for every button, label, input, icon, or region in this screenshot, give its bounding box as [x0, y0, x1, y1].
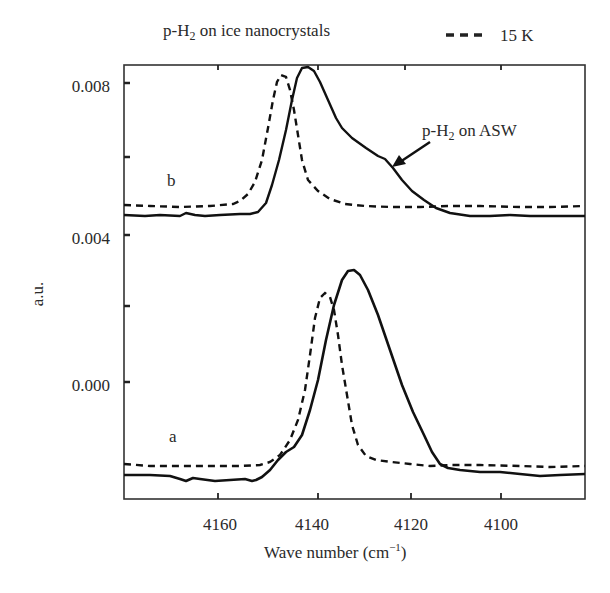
- y-tick-label: 0.004: [72, 229, 111, 248]
- x-tick-label: 4120: [394, 515, 428, 534]
- curve-b-solid: [124, 67, 585, 216]
- y-tick-label: 0.008: [72, 77, 110, 96]
- x-tick-label: 4160: [203, 515, 237, 534]
- spectrum-chart: p-H2 on ice nanocrystals 15 K 0.008 0.00…: [0, 0, 610, 593]
- curve-label-b: b: [167, 171, 176, 190]
- x-axis-label: Wave number (cm−1): [264, 541, 407, 562]
- legend: 15 K: [446, 26, 534, 45]
- x-tick-label: 4140: [295, 515, 329, 534]
- y-axis-tick-labels: 0.008 0.004 0.000: [72, 77, 111, 395]
- chart-title: p-H2 on ice nanocrystals: [163, 21, 330, 43]
- y-tick-label: 0.000: [72, 376, 110, 395]
- legend-label: 15 K: [500, 26, 534, 45]
- y-axis-label: a.u.: [28, 282, 47, 307]
- x-axis-tick-labels: 4160 4140 4120 4100: [203, 515, 518, 534]
- curve-a-dashed: [124, 293, 585, 467]
- curve-label-a: a: [169, 427, 177, 446]
- annotation-asw: p-H2 on ASW: [422, 121, 518, 143]
- curve-a-solid: [124, 270, 585, 481]
- x-tick-label: 4100: [484, 515, 518, 534]
- annotation-arrow-icon: [392, 142, 430, 167]
- y-axis-ticks: [124, 83, 130, 382]
